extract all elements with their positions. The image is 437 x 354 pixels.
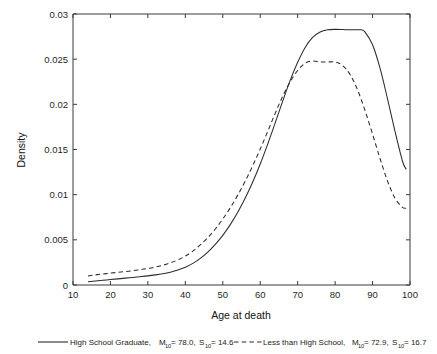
y-tick-label: 0.02 xyxy=(50,99,69,110)
y-tick-label: 0 xyxy=(63,280,68,291)
legend-label-0-s-eq: = 14.6 xyxy=(211,338,234,347)
x-tick-label: 10 xyxy=(68,289,79,300)
y-axis-title: Density xyxy=(15,132,27,168)
legend-label-1-prefix: Less than High School, xyxy=(263,338,345,347)
density-chart-figure: 102030405060708090100 00.0050.010.0150.0… xyxy=(0,0,437,354)
legend-label-0-s: S xyxy=(199,338,204,347)
x-tick-label: 90 xyxy=(367,289,378,300)
y-tick-label: 0.01 xyxy=(50,189,69,200)
x-tick-label: 100 xyxy=(402,289,418,300)
y-tick-label: 0.005 xyxy=(44,234,68,245)
x-tick-label: 60 xyxy=(255,289,266,300)
x-tick-label: 50 xyxy=(217,289,228,300)
x-tick-label: 20 xyxy=(105,289,116,300)
x-tick-label: 40 xyxy=(180,289,191,300)
legend-label-1-s: S xyxy=(392,338,397,347)
legend-label-0-m-eq: = 78.0, xyxy=(171,338,196,347)
x-tick-label: 70 xyxy=(292,289,303,300)
x-tick-label: 80 xyxy=(330,289,341,300)
y-tick-label: 0.015 xyxy=(44,144,68,155)
x-axis-title: Age at death xyxy=(211,309,271,321)
chart-svg: 102030405060708090100 00.0050.010.0150.0… xyxy=(0,0,437,354)
legend-label-1-s-eq: = 16.7 xyxy=(404,338,427,347)
legend-label-0-prefix: High School Graduate, xyxy=(70,338,151,347)
chart-legend: High School Graduate, M 10 = 78.0, S 10 … xyxy=(38,338,427,349)
y-tick-label: 0.025 xyxy=(44,54,68,65)
y-tick-label: 0.03 xyxy=(50,9,69,20)
legend-label-1-m-eq: = 72.9, xyxy=(364,338,389,347)
x-tick-label: 30 xyxy=(143,289,154,300)
